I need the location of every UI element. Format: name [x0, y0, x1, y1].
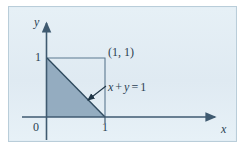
y-axis-label: y [34, 16, 39, 28]
line-equation-label: x+y=1 [108, 81, 146, 93]
x-axis-label: x [221, 123, 226, 135]
figure-root: y x 1 1 0 (1, 1) x+y=1 [0, 0, 247, 151]
equation-value: 1 [140, 80, 146, 94]
equation-pointer-arrow [88, 86, 106, 100]
equation-equals-sign: = [131, 80, 138, 94]
y-tick-label-1: 1 [35, 51, 41, 63]
vertex-point-label: (1, 1) [108, 46, 134, 58]
x-tick-label-1: 1 [102, 121, 108, 133]
equation-plus-sign: + [115, 80, 122, 94]
equation-term-x: x [108, 80, 113, 94]
equation-term-y: y [124, 80, 129, 94]
origin-label: 0 [33, 121, 39, 133]
